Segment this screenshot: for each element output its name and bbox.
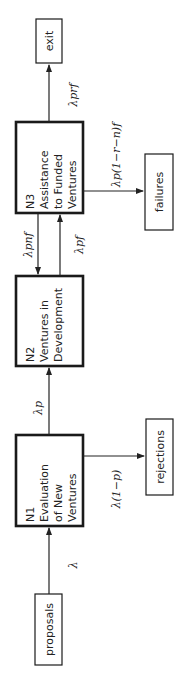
exit-box: exit (36, 19, 62, 63)
edge-label-lambda-prf: λprf (67, 81, 80, 107)
edge-label-lambda-pnf: λpnf (22, 230, 35, 258)
n1-line-3: of New (52, 484, 65, 522)
n2-line-1: N2 (24, 347, 37, 362)
n3-line-1: N3 (24, 194, 37, 209)
exit-label: exit (43, 30, 56, 51)
n3-assistance-box: N3 Assistance to Funded Ventures (16, 122, 83, 213)
edge-label-lambda-p: λp (32, 401, 45, 416)
n2-line-2: Ventures in (38, 300, 51, 362)
proposals-box: proposals (35, 594, 62, 665)
edge-label-lambda-pf: λpf (73, 234, 86, 255)
edge-label-lambda: λ (67, 562, 80, 570)
n2-line-3: Development (52, 287, 65, 362)
proposals-label: proposals (43, 603, 56, 656)
edge-label-failure-rate: λp(1−r−n)f (110, 121, 123, 188)
edge-label-rejection-rate: λ(1−p) (110, 470, 123, 510)
failures-box: failures (145, 154, 173, 230)
rejections-box: rejections (146, 419, 173, 495)
failures-label: failures (153, 171, 166, 212)
n3-line-3: to Funded (52, 154, 65, 209)
queueing-network-diagram: proposals λ N1 Evaluation of New Venture… (0, 0, 174, 686)
n3-line-4: Ventures (66, 160, 79, 209)
n1-line-2: Evaluation (38, 464, 51, 522)
n1-line-1: N1 (24, 507, 37, 522)
rejections-label: rejections (154, 430, 167, 484)
n1-line-4: Ventures (66, 473, 79, 522)
n2-development-box: N2 Ventures in Development (16, 276, 83, 366)
n1-evaluation-box: N1 Evaluation of New Ventures (16, 435, 83, 526)
n3-line-2: Assistance (38, 150, 51, 209)
